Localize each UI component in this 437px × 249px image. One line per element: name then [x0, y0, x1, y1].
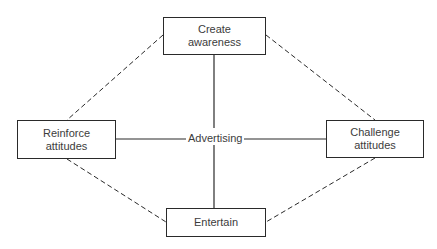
- edge-top-left: [67, 35, 163, 120]
- node-reinforce-attitudes-line1: Reinforce: [43, 127, 90, 140]
- node-reinforce-attitudes: Reinforce attitudes: [17, 120, 116, 159]
- node-challenge-attitudes: Challenge attitudes: [326, 120, 424, 158]
- node-entertain: Entertain: [166, 208, 266, 237]
- node-create-awareness: Create awareness: [163, 17, 266, 55]
- node-challenge-attitudes-line1: Challenge: [350, 126, 400, 139]
- node-reinforce-attitudes-line2: attitudes: [43, 140, 90, 153]
- node-create-awareness-line2: awareness: [188, 36, 241, 49]
- node-entertain-label: Entertain: [194, 216, 238, 229]
- edge-top-right: [266, 35, 375, 120]
- edge-left-bottom: [67, 159, 166, 222]
- node-challenge-attitudes-line2: attitudes: [350, 139, 400, 152]
- node-create-awareness-line1: Create: [188, 23, 241, 36]
- center-node-advertising: Advertising: [186, 132, 244, 145]
- edge-right-bottom: [266, 158, 375, 222]
